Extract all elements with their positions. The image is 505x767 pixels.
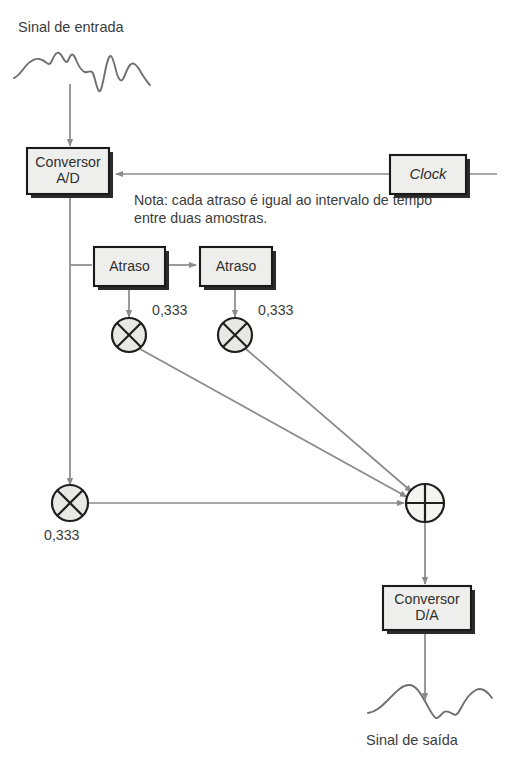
block-label-delay1: Atraso <box>94 247 165 286</box>
multiplier-3 <box>52 485 88 521</box>
block-label-adc: Conversor A/D <box>27 148 109 194</box>
output-signal-label: Sinal de saída <box>366 731 458 749</box>
multiplier-1 <box>112 318 146 352</box>
connector-lines <box>70 84 497 700</box>
input-waveform <box>14 53 150 92</box>
block-label-delay2: Atraso <box>200 247 272 286</box>
dac-label-line2: D/A <box>415 607 439 623</box>
gain-value-1: 0,333 <box>152 302 188 318</box>
gain-value-2: 0,333 <box>258 302 294 318</box>
output-waveform <box>368 685 492 718</box>
input-signal-label: Sinal de entrada <box>18 18 124 36</box>
adc-label-line2: A/D <box>56 170 80 186</box>
multiplier-2 <box>218 318 252 352</box>
gain-value-3: 0,333 <box>44 527 80 543</box>
block-label-clock: Clock <box>390 155 466 194</box>
signal-flow-diagram: Sinal de entrada Nota: cada atraso é igu… <box>0 0 505 767</box>
note-text: Nota: cada atraso é igual ao intervalo d… <box>134 192 434 228</box>
dac-label-line1: Conversor <box>394 591 459 607</box>
summing-junction <box>406 484 444 522</box>
adc-label-line1: Conversor <box>35 154 100 170</box>
block-label-dac: Conversor D/A <box>383 586 471 630</box>
diagram-vector-layer <box>0 0 505 767</box>
